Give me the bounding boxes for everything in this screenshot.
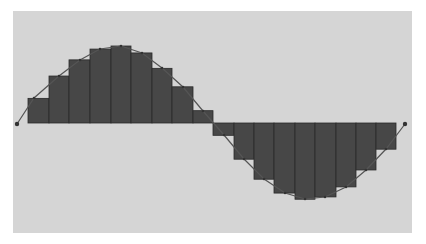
curve-point [263,178,266,181]
bar [315,123,336,197]
curve-point [223,134,226,137]
curve-point [304,198,307,201]
curve-point [15,122,19,126]
curve-point [120,45,123,48]
bar [172,87,193,123]
curve-point [33,97,36,100]
bar [295,123,315,199]
bar [152,68,172,123]
bar [131,53,152,123]
curve-point [243,158,246,161]
bar [69,60,90,123]
curve-point [365,169,368,172]
curve-point [324,196,327,199]
curve-point [345,186,348,189]
bar [376,123,396,149]
curve-point [161,67,164,70]
bar [90,49,111,123]
curve-point [385,148,388,151]
curve-point [284,192,287,195]
sine-riemann-plot [0,0,426,244]
bar [213,123,234,135]
bar [111,46,131,123]
bar [193,111,213,123]
bar [274,123,295,193]
bar [49,76,69,123]
curve-point [141,52,144,55]
bar [234,123,254,159]
curve-point [182,86,185,89]
bar [254,123,274,179]
bar [336,123,356,187]
curve-point [79,59,82,62]
curve-point [403,122,407,126]
curve-point [99,48,102,51]
curve-point [58,75,61,78]
curve-point [202,110,205,113]
